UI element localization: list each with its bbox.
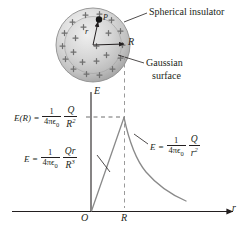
leader-spherical-insulator bbox=[124, 13, 147, 22]
equation-at-R-numerator: Q bbox=[65, 106, 76, 116]
label-axis-E: E bbox=[94, 85, 100, 96]
equation-at-R-ratio: Q R2 bbox=[64, 106, 77, 130]
label-gaussian-surface-line1: Gaussian bbox=[146, 57, 183, 68]
label-radius-R: R bbox=[128, 36, 134, 47]
equation-at-R-denominator: R2 bbox=[64, 118, 77, 130]
equation-at-R-coef-num: 1 bbox=[48, 107, 56, 116]
equation-outside-denominator: r2 bbox=[189, 147, 200, 159]
equation-inside-coefficient: 1 4πϵ0 bbox=[41, 148, 60, 170]
label-tick-R: R bbox=[121, 212, 127, 223]
equation-field-at-R: E(R) = 1 4πϵ0 Q R2 bbox=[14, 106, 77, 130]
figure-root: Spherical insulator Gaussian surface P r… bbox=[0, 0, 243, 236]
equation-at-R-coef-den: 4πϵ0 bbox=[42, 117, 61, 128]
equation-inside-numerator: Qr bbox=[63, 147, 78, 157]
equation-inside-ratio: Qr R3 bbox=[63, 147, 78, 171]
field-curve bbox=[92, 118, 187, 212]
equation-outside-numerator: Q bbox=[189, 135, 200, 145]
equation-outside-equals: = bbox=[159, 142, 164, 152]
equation-at-R-coefficient: 1 4πϵ0 bbox=[42, 107, 61, 129]
equation-outside-ratio: Q r2 bbox=[189, 135, 200, 159]
equation-at-R-equals: = bbox=[34, 113, 39, 123]
equation-inside-equals: = bbox=[33, 154, 38, 164]
equation-outside-coefficient: 1 4πϵ0 bbox=[167, 136, 186, 158]
equation-outside-lhs: E bbox=[150, 142, 156, 152]
equation-inside-coef-den: 4πϵ0 bbox=[41, 158, 60, 169]
label-axis-r: r bbox=[232, 202, 236, 213]
label-point-P: P bbox=[103, 14, 108, 23]
label-radius-r: r bbox=[85, 27, 88, 37]
equation-inside-coef-num: 1 bbox=[46, 148, 54, 157]
curve-inside-linear bbox=[92, 118, 125, 212]
equation-field-outside: E = 1 4πϵ0 Q r2 bbox=[150, 135, 200, 159]
point-P-marker bbox=[96, 16, 102, 22]
equation-inside-denominator: R3 bbox=[64, 159, 77, 171]
label-spherical-insulator: Spherical insulator bbox=[149, 6, 224, 17]
label-gaussian-surface-line2: surface bbox=[152, 70, 181, 81]
equation-inside-lhs: E bbox=[24, 154, 30, 164]
equation-at-R-lhs: E(R) bbox=[14, 113, 31, 123]
curve-outside-inverse-square bbox=[124, 118, 186, 202]
equation-field-inside: E = 1 4πϵ0 Qr R3 bbox=[24, 147, 77, 171]
equation-outside-coef-den: 4πϵ0 bbox=[167, 146, 186, 157]
label-origin-O: O bbox=[81, 212, 88, 223]
equation-outside-coef-num: 1 bbox=[172, 136, 180, 145]
